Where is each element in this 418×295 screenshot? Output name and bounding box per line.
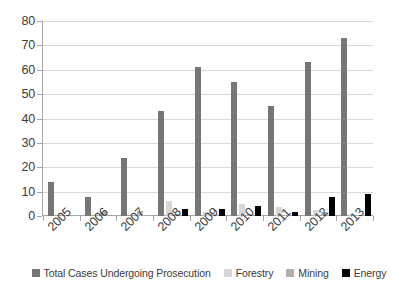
legend-item[interactable]: Forestry xyxy=(224,268,274,279)
bar-group xyxy=(263,21,300,216)
bar-total-cases xyxy=(341,38,347,216)
bar-energy xyxy=(365,194,371,216)
x-axis-tick-mark xyxy=(80,216,81,221)
x-axis-tick-mark xyxy=(300,216,301,221)
x-axis-tick-mark xyxy=(190,216,191,221)
legend-item[interactable]: Energy xyxy=(342,268,387,279)
y-axis-tick-label: 10 xyxy=(0,186,35,199)
x-axis-tick-mark xyxy=(226,216,227,221)
bar-total-cases xyxy=(158,111,164,216)
y-axis-tick-label: 50 xyxy=(0,88,35,101)
legend-label: Total Cases Undergoing Prosecution xyxy=(44,268,211,279)
y-axis-tick-mark xyxy=(37,45,42,46)
y-axis-tick-label: 60 xyxy=(0,64,35,77)
y-axis-tick-label: 0 xyxy=(0,210,35,223)
legend-swatch-icon xyxy=(286,269,294,277)
bar-group xyxy=(190,21,227,216)
y-axis-tick-mark xyxy=(37,119,42,120)
bar-chart: 01020304050607080 2005200620072008200920… xyxy=(0,0,418,295)
y-axis-tick-label: 80 xyxy=(0,15,35,28)
bar-total-cases xyxy=(121,158,127,217)
y-axis-tick-label: 20 xyxy=(0,161,35,174)
legend-label: Forestry xyxy=(236,268,274,279)
chart-legend: Total Cases Undergoing ProsecutionForest… xyxy=(0,268,418,279)
bar-group xyxy=(300,21,337,216)
bar-group xyxy=(226,21,263,216)
x-axis-tick-mark xyxy=(153,216,154,221)
y-axis-tick-mark xyxy=(37,143,42,144)
bar-total-cases xyxy=(85,197,91,217)
bar-groups xyxy=(43,21,373,216)
y-axis-tick-label: 70 xyxy=(0,39,35,52)
x-axis-tick-mark xyxy=(116,216,117,221)
legend-item[interactable]: Total Cases Undergoing Prosecution xyxy=(32,268,211,279)
y-axis-tick-label: 30 xyxy=(0,137,35,150)
y-axis-tick-mark xyxy=(37,70,42,71)
bar-group xyxy=(153,21,190,216)
bar-total-cases xyxy=(48,182,54,216)
bar-group xyxy=(116,21,153,216)
x-axis-tick-mark xyxy=(373,216,374,221)
legend-swatch-icon xyxy=(32,269,40,277)
y-axis-tick-mark xyxy=(37,21,42,22)
y-axis-tick-mark xyxy=(37,192,42,193)
legend-item[interactable]: Mining xyxy=(286,268,328,279)
legend-swatch-icon xyxy=(342,269,350,277)
legend-swatch-icon xyxy=(224,269,232,277)
y-axis-tick-mark xyxy=(37,216,42,217)
x-axis-tick-mark xyxy=(263,216,264,221)
bar-total-cases xyxy=(231,82,237,216)
y-axis-tick-label: 40 xyxy=(0,113,35,126)
y-axis-tick-mark xyxy=(37,94,42,95)
x-axis-tick-mark xyxy=(43,216,44,221)
bar-group xyxy=(80,21,117,216)
legend-label: Mining xyxy=(298,268,328,279)
legend-label: Energy xyxy=(354,268,387,279)
bar-total-cases xyxy=(268,106,274,216)
bar-total-cases xyxy=(195,67,201,216)
x-axis-tick-mark xyxy=(336,216,337,221)
bar-group xyxy=(336,21,373,216)
y-axis-tick-mark xyxy=(37,167,42,168)
bar-total-cases xyxy=(305,62,311,216)
bar-group xyxy=(43,21,80,216)
